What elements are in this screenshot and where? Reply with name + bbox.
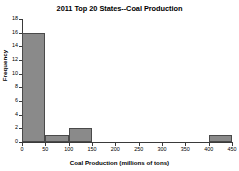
- x-tick-label: 100: [64, 147, 73, 152]
- x-tick-label: 250: [134, 147, 143, 152]
- histogram-chart: 2011 Top 20 States--Coal Production 0246…: [0, 0, 239, 171]
- y-tick-mark: [19, 60, 22, 61]
- y-tick-mark: [19, 33, 22, 34]
- plot-area: 024681012141618: [22, 19, 232, 142]
- y-tick-label: 16: [12, 30, 18, 35]
- y-tick-label: 0: [15, 139, 18, 144]
- chart-title: 2011 Top 20 States--Coal Production: [0, 4, 239, 13]
- y-tick-label: 14: [12, 44, 18, 49]
- y-tick-mark: [19, 74, 22, 75]
- y-axis-label: Frequency: [1, 36, 8, 96]
- y-tick-mark: [19, 19, 22, 20]
- y-tick-label: 18: [12, 16, 18, 21]
- bar: [22, 33, 45, 142]
- x-axis-ticks: 050100150200250300350400450: [22, 143, 232, 153]
- x-tick-label: 200: [111, 147, 120, 152]
- y-tick-mark: [19, 87, 22, 88]
- bar: [209, 135, 232, 142]
- y-tick-label: 2: [15, 126, 18, 131]
- y-tick-label: 6: [15, 98, 18, 103]
- x-axis-label: Coal Production (millions of tons): [0, 159, 239, 166]
- x-tick-label: 150: [88, 147, 97, 152]
- y-tick-label: 12: [12, 57, 18, 62]
- y-tick-label: 4: [15, 112, 18, 117]
- y-tick-mark: [19, 128, 22, 129]
- bar: [45, 135, 68, 142]
- x-tick-label: 50: [42, 147, 48, 152]
- x-tick-label: 350: [181, 147, 190, 152]
- y-tick-label: 10: [12, 71, 18, 76]
- bar: [69, 128, 92, 142]
- x-tick-label: 0: [21, 147, 24, 152]
- y-tick-mark: [19, 115, 22, 116]
- x-tick-label: 300: [158, 147, 167, 152]
- y-tick-mark: [19, 46, 22, 47]
- x-tick-label: 400: [204, 147, 213, 152]
- y-tick-label: 8: [15, 85, 18, 90]
- y-tick-mark: [19, 101, 22, 102]
- x-tick-label: 450: [228, 147, 237, 152]
